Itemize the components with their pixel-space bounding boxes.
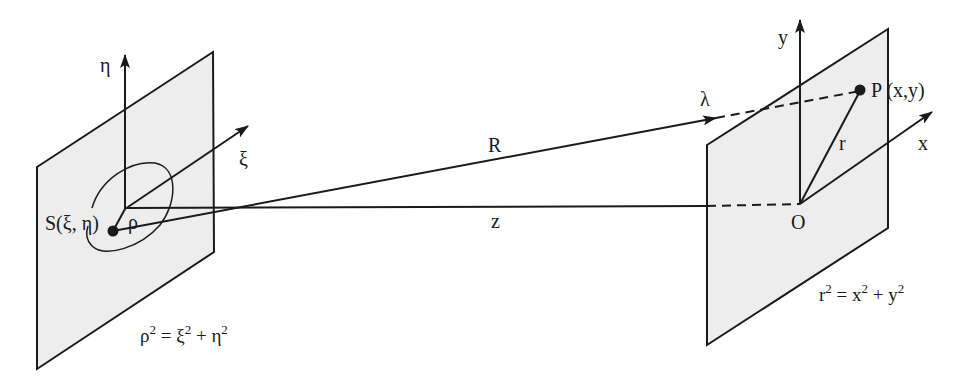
z-distance-label: z <box>491 210 500 232</box>
lambda-label: λ <box>700 88 710 110</box>
x-label: x <box>918 132 928 154</box>
fresnel-diffraction-diagram: η ξ S(ξ, η) ρ ρ2 = ξ2 + η2 R z λ y x P (… <box>0 0 964 379</box>
p-point-label: P (x,y) <box>871 79 925 102</box>
diagram-svg: η ξ S(ξ, η) ρ ρ2 = ξ2 + η2 R z λ y x P (… <box>0 0 964 379</box>
origin-label: O <box>791 211 805 233</box>
y-label: y <box>778 26 788 49</box>
xi-label: ξ <box>239 148 248 170</box>
eta-label: η <box>100 54 110 77</box>
r-radius-label: r <box>839 132 846 154</box>
observation-point <box>855 85 866 96</box>
source-equation: ρ2 = ξ2 + η2 <box>140 322 228 346</box>
rho-label: ρ <box>128 211 138 234</box>
r-distance-label: R <box>488 134 502 156</box>
source-point-label: S(ξ, η) <box>45 212 99 235</box>
observation-equation: r2 = x2 + y2 <box>819 281 904 305</box>
source-point <box>108 226 119 237</box>
